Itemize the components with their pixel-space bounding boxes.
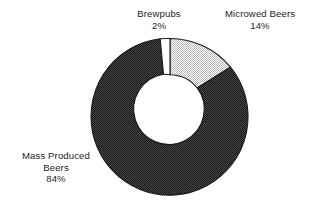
slice-label-microbrewed-value: 14% [205,20,315,32]
slice-label-mass-produced-name-line1: Mass Produced [2,150,110,162]
slice-group [91,38,248,195]
slice-label-brewpubs-name: Brewpubs [113,8,205,20]
slice-label-mass-produced: Mass Produced Beers 84% [2,150,110,185]
donut-chart: Brewpubs 2% Microwed Beers 14% Mass Prod… [0,0,315,209]
slice-label-mass-produced-value: 84% [2,173,110,185]
slice-label-microbrewed: Microwed Beers 14% [205,8,315,31]
slice-label-mass-produced-name-line2: Beers [2,162,110,174]
slice-label-brewpubs: Brewpubs 2% [113,8,205,31]
slice-label-brewpubs-value: 2% [113,20,205,32]
slice-label-microbrewed-name: Microwed Beers [205,8,315,20]
